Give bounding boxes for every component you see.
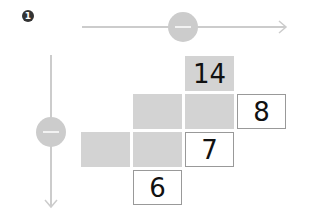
- number-cell: 7: [185, 132, 234, 167]
- shaded-cell: [81, 132, 130, 167]
- shaded-cell: [133, 132, 182, 167]
- shaded-cell: [133, 94, 182, 129]
- number-cell: 8: [237, 94, 286, 129]
- shaded-cell: [185, 94, 234, 129]
- horizontal-slider-handle[interactable]: [168, 12, 198, 42]
- vertical-slider-handle[interactable]: [36, 117, 66, 147]
- number-cell: 14: [185, 56, 234, 91]
- number-cell: 6: [133, 170, 182, 205]
